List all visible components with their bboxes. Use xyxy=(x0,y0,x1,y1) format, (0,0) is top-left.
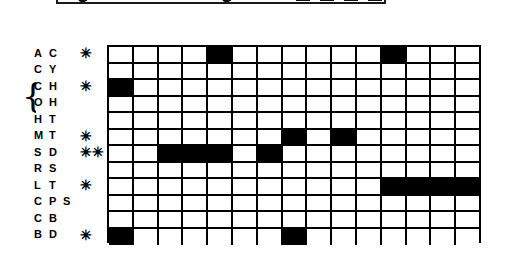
matrix-cell-empty xyxy=(407,80,432,97)
row-code-secondary: T xyxy=(49,130,56,141)
matrix-cell-empty xyxy=(258,97,283,114)
matrix-cell-empty xyxy=(258,212,283,229)
row-asterisk-marker: ✳✳ xyxy=(80,145,104,159)
row-asterisk-marker: ✳ xyxy=(80,228,92,242)
matrix-cell-empty xyxy=(283,196,308,213)
matrix-cell-empty xyxy=(307,64,332,81)
matrix-cell-empty xyxy=(258,163,283,180)
matrix-cell-empty xyxy=(183,64,208,81)
matrix-cell-empty xyxy=(233,212,258,229)
row-label: LT✳ xyxy=(0,177,107,194)
matrix-cell-empty xyxy=(109,163,134,180)
matrix-row xyxy=(109,163,479,180)
beam-block-icon xyxy=(320,0,334,1)
matrix-cell-empty xyxy=(233,47,258,64)
row-label: AC✳ xyxy=(0,45,107,62)
matrix-cell-empty xyxy=(208,163,233,180)
matrix-cell-empty xyxy=(357,64,382,81)
matrix-cell-empty xyxy=(233,64,258,81)
matrix-cell-empty xyxy=(456,47,479,64)
matrix-cell-empty xyxy=(159,130,184,147)
matrix-cell-empty xyxy=(258,196,283,213)
matrix-cell-empty xyxy=(134,212,159,229)
matrix-cell-empty xyxy=(208,196,233,213)
matrix-cell-empty xyxy=(134,64,159,81)
matrix-cell-empty xyxy=(382,196,407,213)
matrix-cell-empty xyxy=(456,64,479,81)
matrix-cell-empty xyxy=(159,196,184,213)
matrix-cell-empty xyxy=(208,229,233,246)
matrix-cell-empty xyxy=(357,179,382,196)
matrix-cell-empty xyxy=(332,229,357,246)
row-code-primary: C xyxy=(34,64,42,75)
matrix-cell-empty xyxy=(382,163,407,180)
matrix-cell-empty xyxy=(159,113,184,130)
matrix-cell-empty xyxy=(258,130,283,147)
matrix-cell-empty xyxy=(159,229,184,246)
matrix-cell-empty xyxy=(456,146,479,163)
row-code-secondary: T xyxy=(49,114,56,125)
row-label: CB xyxy=(0,210,107,227)
row-code-secondary: T xyxy=(49,180,56,191)
row-label: SD✳✳ xyxy=(0,144,107,161)
matrix-cell-filled xyxy=(208,146,233,163)
matrix-cell-empty xyxy=(283,179,308,196)
matrix-cell-empty xyxy=(332,97,357,114)
matrix-cell-empty xyxy=(159,64,184,81)
matrix-cell-empty xyxy=(233,80,258,97)
matrix-cell-filled xyxy=(258,146,283,163)
row-code-secondary: C xyxy=(49,48,57,59)
staff-fragment xyxy=(56,0,386,8)
matrix-cell-empty xyxy=(109,47,134,64)
row-label: OH xyxy=(0,95,107,112)
matrix-row xyxy=(109,80,479,97)
row-code-primary: A xyxy=(34,48,42,59)
matrix-row xyxy=(109,47,479,64)
matrix-cell-empty xyxy=(283,64,308,81)
matrix-cell-empty xyxy=(407,97,432,114)
matrix-cell-empty xyxy=(407,163,432,180)
row-code-secondary: Y xyxy=(49,64,57,75)
matrix-cell-empty xyxy=(357,146,382,163)
row-asterisk-marker: ✳ xyxy=(80,129,92,143)
matrix-cell-empty xyxy=(456,163,479,180)
matrix-cell-empty xyxy=(431,47,456,64)
row-label: CY xyxy=(0,62,107,79)
matrix-cell-empty xyxy=(134,163,159,180)
matrix-cell-empty xyxy=(283,113,308,130)
matrix-cell-empty xyxy=(134,229,159,246)
matrix-cell-empty xyxy=(307,179,332,196)
matrix-cell-empty xyxy=(431,146,456,163)
matrix-cell-filled xyxy=(382,179,407,196)
matrix-row xyxy=(109,179,479,196)
row-label: CPS xyxy=(0,194,107,211)
matrix-cell-empty xyxy=(307,163,332,180)
matrix-cell-empty xyxy=(134,146,159,163)
matrix-cell-empty xyxy=(134,80,159,97)
matrix-cell-empty xyxy=(407,130,432,147)
matrix-cell-empty xyxy=(283,163,308,180)
group-brace: { xyxy=(22,78,36,114)
matrix-cell-empty xyxy=(332,179,357,196)
matrix-cell-empty xyxy=(208,179,233,196)
matrix-row xyxy=(109,196,479,213)
row-label-column: AC✳CYCH✳OHHTMT✳SD✳✳RSLT✳CPSCBBD✳ xyxy=(0,45,107,243)
matrix-cell-empty xyxy=(208,130,233,147)
matrix-cell-empty xyxy=(134,97,159,114)
matrix-cell-empty xyxy=(307,97,332,114)
presence-absence-matrix xyxy=(107,45,481,243)
matrix-cell-empty xyxy=(134,47,159,64)
matrix-row xyxy=(109,64,479,81)
row-asterisk-marker: ✳ xyxy=(80,79,92,93)
matrix-cell-empty xyxy=(109,130,134,147)
matrix-cell-empty xyxy=(357,163,382,180)
matrix-cell-empty xyxy=(407,113,432,130)
matrix-cell-empty xyxy=(407,229,432,246)
matrix-cell-empty xyxy=(357,97,382,114)
matrix-cell-empty xyxy=(382,130,407,147)
row-code-secondary: D xyxy=(49,229,57,240)
row-code-secondary: B xyxy=(49,213,57,224)
matrix-cell-empty xyxy=(233,163,258,180)
row-code-primary: M xyxy=(34,130,44,141)
row-code-primary: L xyxy=(34,180,41,191)
